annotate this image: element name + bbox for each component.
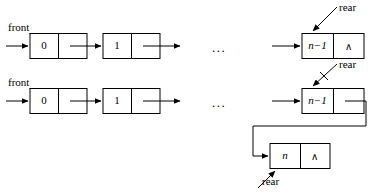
rear-arrow-row2 <box>313 64 337 86</box>
front-label-row1: front <box>8 22 29 33</box>
linked-list-queue-diagram: front 0 1 ... n−1 ∧ rear front 0 1 ... n… <box>0 0 371 192</box>
ellipsis-row1: ... <box>212 41 226 54</box>
node-value-nminus1-row2: n−1 <box>302 95 333 106</box>
rear-label-row1: rear <box>339 2 356 13</box>
node-value-n-row2: n <box>270 150 300 161</box>
node-value-1-row1: 1 <box>103 40 131 51</box>
node-value-1-row2: 1 <box>103 95 131 106</box>
row-after-insert <box>6 64 366 188</box>
node-value-0-row2: 0 <box>30 95 58 106</box>
front-label-row2: front <box>8 77 29 88</box>
node-value-0-row1: 0 <box>30 40 58 51</box>
rear-arrow-row1 <box>313 7 337 31</box>
rear-label-row2: rear <box>339 59 356 70</box>
ellipsis-row2: ... <box>212 96 226 109</box>
null-pointer-mark-row1: ∧ <box>345 42 352 52</box>
null-pointer-mark-n-row2: ∧ <box>311 152 318 162</box>
node-value-nminus1-row1: n−1 <box>302 40 333 51</box>
rear-label-new-node: rear <box>262 176 279 187</box>
